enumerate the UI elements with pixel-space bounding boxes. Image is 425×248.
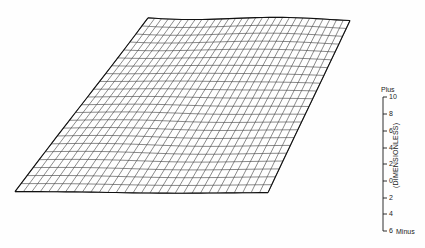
mesh-column-line [142, 18, 250, 193]
mesh-column-line [217, 18, 309, 193]
mesh-column-line [49, 19, 175, 191]
mesh-edge-far [148, 17, 350, 20]
mesh-column-line [57, 19, 182, 191]
scale-tick-label: 8 [389, 110, 393, 117]
scale-tick-label: 4 [389, 210, 393, 217]
scale-plus-label: Plus [381, 86, 395, 93]
mesh-edge-left [15, 18, 148, 192]
mesh-column-line [116, 19, 229, 193]
mesh-edge-near [15, 192, 268, 194]
mesh-surface [15, 17, 350, 193]
scale-tick-label: 10 [389, 93, 397, 100]
scale-minus-label: Minus [396, 228, 415, 235]
scale-tick-label: 2 [389, 194, 393, 201]
mesh-column-line [158, 17, 262, 193]
wireframe-figure: 1086420246 (DIMENSIONLESS) Plus Minus [0, 0, 425, 248]
mesh-column-line [192, 18, 289, 194]
axis-title-dimensionless: (DIMENSIONLESS) [392, 123, 400, 188]
mesh-column-line [82, 20, 201, 193]
scale-tick-label: 6 [389, 227, 393, 234]
mesh-column-line [23, 18, 154, 191]
mesh-column-line [201, 18, 297, 193]
figure-root: 1086420246 (DIMENSIONLESS) Plus Minus [0, 0, 425, 248]
